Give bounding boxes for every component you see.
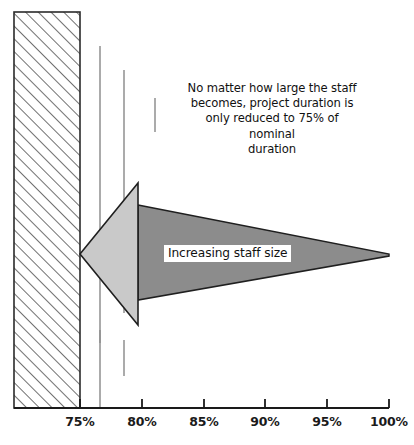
note-line-1: No matter how large the staff [186, 81, 358, 96]
arrowhead-at-75-percent [80, 183, 138, 325]
note-line-3: only reduced to 75% of nominal [186, 111, 358, 141]
axis-label-85: 85% [189, 414, 218, 429]
axis-label-100: 100% [370, 414, 408, 429]
axis-label-75: 75% [65, 414, 94, 429]
staffing-duration-chart [0, 0, 414, 445]
note-line-4: duration [186, 142, 358, 157]
axis-label-95: 95% [312, 414, 341, 429]
nominal-duration-note: No matter how large the staff becomes, p… [186, 81, 358, 157]
dashed-marker-group-lower [100, 330, 124, 407]
infeasible-region-hatched-block [14, 12, 80, 408]
note-line-2: becomes, project duration is [186, 96, 358, 111]
figure-canvas: 75% 80% 85% 90% 95% 100% No matter how l… [0, 0, 414, 445]
increasing-staff-size-label: Increasing staff size [164, 245, 291, 262]
axis-label-90: 90% [250, 414, 279, 429]
axis-label-80: 80% [127, 414, 156, 429]
